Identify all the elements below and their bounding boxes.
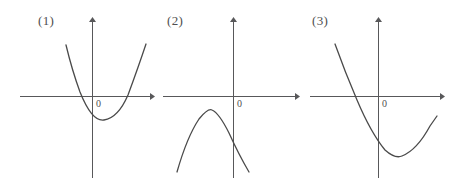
panel-2-parabola: [177, 110, 249, 172]
figure-panel-1: (1) 0: [0, 0, 155, 188]
panel-2-origin-label: 0: [237, 98, 242, 109]
arrow-right-icon: [295, 93, 300, 100]
panel-3-origin-label: 0: [382, 98, 387, 109]
figure-panel-2: (2) 0: [155, 0, 305, 188]
panel-2-plot: [155, 0, 305, 188]
panel-1-parabola: [66, 44, 146, 120]
arrow-up-icon: [230, 17, 237, 22]
panel-3-plot: [305, 0, 465, 188]
arrow-up-icon: [375, 17, 382, 22]
panel-1-origin-label: 0: [96, 98, 101, 109]
arrow-up-icon: [89, 17, 96, 22]
panel-1-plot: [0, 0, 155, 188]
parabola-figure-set: (1) 0 (2) 0 (3): [0, 0, 465, 188]
figure-panel-3: (3) 0: [305, 0, 465, 188]
arrow-right-icon: [440, 93, 445, 100]
